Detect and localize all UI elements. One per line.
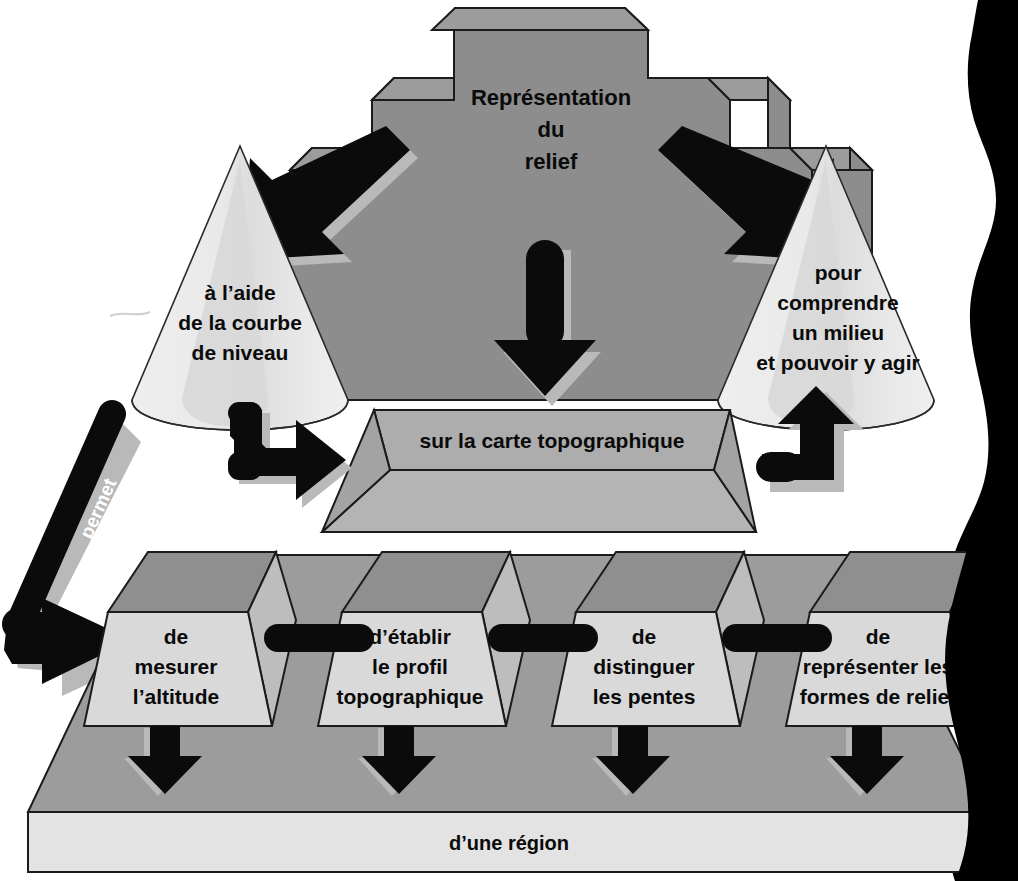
right-cone-line1: pour <box>815 261 862 284</box>
block3-line1: de <box>632 625 657 648</box>
map-slab-front-face <box>322 470 756 532</box>
right-cone-line4: et pouvoir y agir <box>756 351 919 374</box>
elbow-arrow-left-cap <box>228 402 262 424</box>
connector-bar-3-4 <box>722 624 832 652</box>
connector-bar-2-3 <box>488 624 598 652</box>
map-slab-label: sur la carte topographique <box>420 429 685 452</box>
block1-top-face <box>108 552 276 612</box>
block2-line3: topographique <box>337 685 484 708</box>
pyramid-tier1-top <box>432 8 648 30</box>
block4-line3: formes de relief <box>800 685 957 708</box>
right-cone-line3: un milieu <box>792 321 884 344</box>
left-cone-line3: de niveau <box>192 341 289 364</box>
connector-bar-1-2 <box>264 624 374 652</box>
left-cone-line1: à l’aide <box>204 281 275 304</box>
pyramid-title-line3: relief <box>525 149 578 174</box>
elbow-arrow-right-cap <box>756 452 802 482</box>
block4-line1: de <box>866 625 891 648</box>
right-cone-line2: comprendre <box>777 291 898 314</box>
block1-line3: l’altitude <box>133 685 219 708</box>
block1-line2: mesurer <box>135 655 218 678</box>
relief-representation-diagram: Représentation du relief à l’aide de la … <box>0 0 1018 881</box>
pyramid-title-line1: Représentation <box>471 85 631 110</box>
block3-line3: les pentes <box>593 685 696 708</box>
diagram-canvas: Représentation du relief à l’aide de la … <box>0 0 1018 881</box>
map-slab: sur la carte topographique <box>322 410 756 532</box>
block3-line2: distinguer <box>593 655 695 678</box>
block2-line1: d’établir <box>369 625 451 648</box>
scan-squiggle <box>110 312 150 316</box>
pyramid-tier2-top-left <box>372 78 454 100</box>
block1-line1: de <box>164 625 189 648</box>
elbow-arrow-left-lowercap <box>228 452 262 480</box>
pyramid-tier2-right-face <box>768 78 790 148</box>
block2-line2: le profil <box>372 655 448 678</box>
base-slab-label: d’une région <box>449 832 569 854</box>
arrow-down-center-stem <box>526 240 564 350</box>
pyramid-title-line2: du <box>538 117 565 142</box>
block4-line2: représenter les <box>803 655 954 678</box>
left-cone-line2: de la courbe <box>178 311 302 334</box>
permet-arrow-elbow-cap <box>2 608 44 640</box>
